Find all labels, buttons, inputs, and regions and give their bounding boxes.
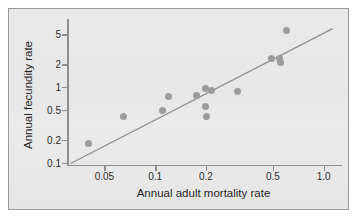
y-axis-title-label: Annual fecundity rate (22, 40, 34, 148)
x-tick-label: 0.1 (148, 171, 162, 182)
y-tick-mark (62, 140, 68, 142)
y-tick-label: 0.1 (47, 157, 61, 168)
y-tick-label: 5 (55, 29, 61, 40)
y-tick-label: 0.2 (47, 134, 61, 145)
x-tick-label: 1.0 (317, 171, 331, 182)
data-point (85, 140, 92, 147)
data-point (268, 55, 275, 62)
y-tick-label: 1 (55, 81, 61, 92)
y-tick-mark (62, 87, 68, 89)
figure-frame: Annual fecundity rate 0.10.20.5125 0.050… (8, 8, 349, 210)
y-tick-mark (62, 163, 68, 165)
reference-line-svg (67, 19, 340, 166)
plot-area: 0.10.20.5125 0.050.10.20.51.0 (67, 23, 340, 166)
data-point (120, 113, 127, 120)
y-axis-title: Annual fecundity rate (21, 23, 35, 166)
data-point (203, 113, 210, 120)
reference-line (71, 29, 333, 164)
x-tick-label: 0.5 (266, 171, 280, 182)
y-tick-mark (62, 110, 68, 112)
data-point (208, 87, 215, 94)
x-tick-label: 0.2 (199, 171, 213, 182)
x-tick-label: 0.05 (95, 171, 114, 182)
data-point (159, 107, 166, 114)
y-tick-label: 0.5 (47, 104, 61, 115)
y-tick-mark (62, 34, 68, 36)
y-tick-mark (62, 64, 68, 66)
y-tick-label: 2 (55, 59, 61, 70)
data-point (165, 93, 172, 100)
reference-line-container (67, 19, 340, 166)
x-axis-title: Annual adult mortality rate (67, 187, 340, 199)
x-axis-title-label: Annual adult mortality rate (137, 187, 271, 199)
figure: Annual fecundity rate 0.10.20.5125 0.050… (0, 0, 357, 219)
data-point (193, 92, 200, 99)
